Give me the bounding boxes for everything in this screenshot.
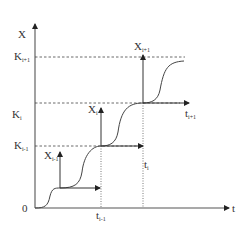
t-i-plus-1-label: ti+1 bbox=[185, 107, 196, 120]
diagram-canvas: X t 0 Ki+1 Ki Ki-1 Xi-1 Xi Xi+1 ti-1 ti … bbox=[0, 0, 237, 228]
k-i-plus-1-label: Ki+1 bbox=[14, 50, 30, 63]
y-axis-label: X bbox=[18, 28, 26, 40]
origin-label: 0 bbox=[22, 202, 28, 214]
t-i-label: ti bbox=[144, 158, 149, 171]
local-axes-i bbox=[101, 108, 143, 146]
x-i-label: Xi bbox=[88, 103, 98, 116]
local-axes-i-minus-1 bbox=[60, 152, 100, 188]
k-i-minus-1-label: Ki-1 bbox=[14, 139, 29, 152]
x-axis-label: t bbox=[232, 202, 235, 214]
local-axes-i-plus-1 bbox=[143, 55, 189, 103]
x-i-minus-1-label: Xi-1 bbox=[44, 149, 59, 162]
x-i-plus-1-label: Xi+1 bbox=[134, 40, 150, 53]
k-i-label: Ki bbox=[12, 108, 22, 121]
growth-curve bbox=[35, 61, 184, 208]
t-i-minus-1-label: ti-1 bbox=[96, 209, 106, 222]
